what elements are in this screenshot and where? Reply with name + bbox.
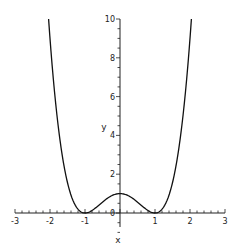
x-axis-label: x (115, 235, 121, 245)
y-tick-label: 8 (110, 54, 115, 63)
x-tick-label: -1 (81, 217, 89, 226)
y-tick-label: 10 (105, 15, 115, 24)
x-tick-label: 2 (187, 217, 192, 226)
y-tick-label: 6 (110, 93, 115, 102)
chart: -3-2-1123 0246810 x y (0, 0, 237, 245)
x-tick-label: -3 (11, 217, 19, 226)
x-tick-label: -2 (46, 217, 54, 226)
y-axis-label: y (101, 122, 107, 132)
x-tick-label: 3 (222, 217, 227, 226)
y-tick-label: 2 (110, 170, 115, 179)
y-tick-label: 4 (110, 131, 115, 140)
x-tick-label: 1 (152, 217, 157, 226)
y-axis: 0246810 (105, 15, 120, 232)
y-tick-label: 0 (110, 209, 115, 218)
x-axis: -3-2-1123 (11, 209, 228, 226)
